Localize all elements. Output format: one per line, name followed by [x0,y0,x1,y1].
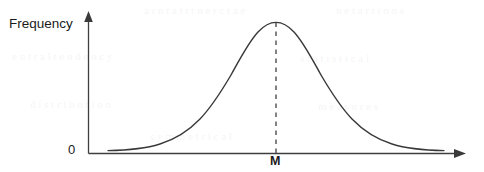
frequency-distribution-figure: a r n t a t t t n e r c t a e n e t a r … [0,0,484,172]
y-axis-label: Frequency [9,17,73,31]
arrow-up-icon [84,11,93,22]
arrow-right-icon [454,149,466,158]
y-axis [84,11,93,154]
mean-axis-label: M [270,155,280,168]
origin-label: 0 [68,143,75,156]
